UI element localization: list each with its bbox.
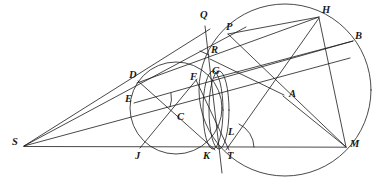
point-label-D: D xyxy=(129,70,137,81)
point-label-L: L xyxy=(228,127,234,138)
line-S-C-G-A xyxy=(24,58,350,146)
chord-P-H-top xyxy=(228,17,319,34)
angle-arc-at-F xyxy=(170,93,172,107)
narrow-lens-right xyxy=(209,71,229,149)
point-label-B: B xyxy=(355,31,362,42)
geometry-figure: S D E C J K T L F G R Q P H B A M xyxy=(0,0,380,190)
point-label-F: F xyxy=(190,72,197,83)
baseline-S-M xyxy=(24,147,346,148)
point-label-A: A xyxy=(289,89,296,100)
chord-F-C-J xyxy=(140,79,197,148)
point-label-E: E xyxy=(125,94,132,105)
point-label-K: K xyxy=(203,151,210,162)
large-right-circle xyxy=(199,4,371,176)
point-label-Q: Q xyxy=(200,10,208,21)
angle-arc-at-T xyxy=(239,124,254,147)
point-label-T: T xyxy=(227,151,233,162)
chord-P-A-M xyxy=(228,34,346,147)
point-label-M: M xyxy=(350,139,359,150)
chord-H-M xyxy=(319,18,346,147)
point-label-G: G xyxy=(212,66,220,77)
point-label-S: S xyxy=(12,137,18,148)
chord-H-L-T xyxy=(226,18,319,150)
point-label-R: R xyxy=(211,45,218,56)
point-label-H: H xyxy=(322,5,330,16)
point-label-J: J xyxy=(135,151,140,162)
point-label-C: C xyxy=(177,112,184,123)
line-S-D-Q xyxy=(24,29,210,146)
chord-G-B xyxy=(214,41,353,78)
point-label-P: P xyxy=(226,22,232,33)
geometry-canvas xyxy=(0,0,380,190)
